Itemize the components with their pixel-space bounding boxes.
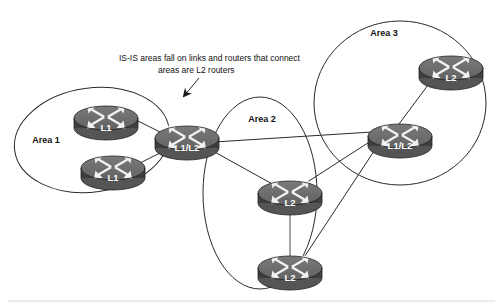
area-label-area-3: Area 3	[370, 28, 398, 38]
router-label: L1/L2	[175, 142, 200, 153]
annotation-callout: IS-IS areas fall on links and routers th…	[119, 53, 301, 96]
router-area1-border-router[interactable]: L1/L2	[155, 126, 219, 161]
link-area1-border-to-area3-border	[214, 132, 372, 142]
router-area2-router-top[interactable]: L2	[258, 181, 322, 216]
router-area1-router-bottom[interactable]: L1	[81, 156, 145, 191]
annotation-line-1: IS-IS areas fall on links and routers th…	[119, 53, 301, 63]
annotation-leader-line	[184, 78, 199, 96]
router-label: L1	[107, 172, 119, 183]
router-label: L1/L2	[388, 140, 413, 151]
annotation-line-2: areas are L2 routers	[158, 65, 235, 75]
router-label: L1	[100, 122, 112, 133]
area-label-area-1: Area 1	[32, 135, 60, 145]
router-label: L2	[284, 272, 295, 283]
router-label: L2	[284, 197, 295, 208]
router-area1-router-top[interactable]: L1	[74, 106, 138, 141]
area-boundary-area-3	[314, 21, 486, 185]
router-area2-router-bottom[interactable]: L2	[258, 256, 322, 291]
router-label: L2	[445, 72, 456, 83]
router-area3-router-top[interactable]: L2	[419, 56, 483, 91]
router-area3-border-router[interactable]: L1/L2	[368, 124, 432, 159]
diagram-canvas: L1 L1 L1/L2	[0, 0, 503, 308]
area-label-area-2: Area 2	[248, 114, 276, 124]
isis-area-diagram: L1 L1 L1/L2	[0, 0, 503, 308]
